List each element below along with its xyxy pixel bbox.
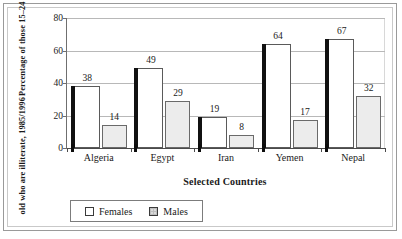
- bar-males[interactable]: [102, 125, 127, 148]
- x-axis-major-tick-mark: [71, 144, 74, 152]
- x-axis-tick-mark: [194, 148, 195, 152]
- bar-value-label-females: 19: [210, 104, 220, 114]
- x-axis-title: Selected Countries: [66, 176, 384, 187]
- figure: Percentage of those 15–24 years old who …: [0, 0, 402, 239]
- y-axis-tick-mark: [63, 116, 67, 117]
- bar-value-label-females: 38: [83, 73, 93, 83]
- y-axis-title-line-1: Percentage of those 15–24 years: [18, 0, 28, 96]
- bar-females[interactable]: [138, 68, 163, 148]
- bar-value-label-males: 8: [239, 122, 244, 132]
- y-axis-tick-label: 80: [39, 13, 63, 23]
- y-axis-title-line-2: old who are illiterate, 1985/1996: [18, 97, 28, 214]
- bar-males[interactable]: [293, 120, 318, 148]
- legend-item-label: Females: [99, 206, 132, 217]
- x-axis-major-tick-mark: [262, 144, 265, 152]
- x-axis-tick-mark: [131, 148, 132, 152]
- bar-value-label-females: 64: [273, 31, 283, 41]
- x-axis-category-label: Egypt: [150, 152, 174, 163]
- bar-females[interactable]: [202, 117, 227, 148]
- x-axis-major-tick-mark: [325, 144, 328, 152]
- legend-item[interactable]: Females: [85, 206, 132, 217]
- bar-value-label-females: 49: [146, 55, 156, 65]
- x-axis-major-tick-mark: [198, 144, 201, 152]
- bar-value-label-males: 32: [364, 83, 374, 93]
- bar-value-label-males: 29: [173, 88, 183, 98]
- bar-value-label-males: 14: [110, 112, 120, 122]
- bar-females[interactable]: [329, 39, 354, 148]
- bar-males[interactable]: [165, 101, 190, 148]
- bar-females[interactable]: [266, 44, 291, 148]
- legend-item-label: Males: [163, 206, 187, 217]
- white-square-swatch: [85, 207, 94, 216]
- x-axis-category-label: Algeria: [84, 152, 114, 163]
- y-axis-title: Percentage of those 15–24 years old who …: [6, 8, 40, 186]
- y-axis-tick-mark: [63, 51, 67, 52]
- x-axis-category-label: Nepal: [341, 152, 365, 163]
- bar-males[interactable]: [356, 96, 381, 148]
- bar-males[interactable]: [229, 135, 254, 148]
- y-axis-tick-label: 40: [39, 78, 63, 88]
- y-axis-tick-label: 60: [39, 46, 63, 56]
- legend-item[interactable]: Males: [149, 206, 187, 217]
- y-axis-tick-label: 0: [39, 143, 63, 153]
- x-axis-category-label: Yemen: [276, 152, 304, 163]
- x-axis-tick-mark: [258, 148, 259, 152]
- bar-value-label-males: 17: [300, 107, 310, 117]
- x-axis-major-tick-mark: [134, 144, 137, 152]
- gridline: [67, 18, 385, 19]
- y-axis-tick-mark: [63, 83, 67, 84]
- x-axis-tick-mark: [321, 148, 322, 152]
- y-axis-tick-label: 20: [39, 111, 63, 121]
- gray-square-swatch: [149, 207, 158, 216]
- x-axis-tick-mark: [385, 148, 386, 152]
- y-axis-tick-mark: [63, 18, 67, 19]
- bar-females[interactable]: [75, 86, 100, 148]
- x-axis-tick-mark: [67, 148, 68, 152]
- bar-value-label-females: 67: [337, 26, 347, 36]
- plot-area: 020406080 3814492919864176732 AlgeriaEgy…: [66, 18, 385, 149]
- x-axis-category-label: Iran: [218, 152, 234, 163]
- chart-legend: FemalesMales: [70, 200, 203, 222]
